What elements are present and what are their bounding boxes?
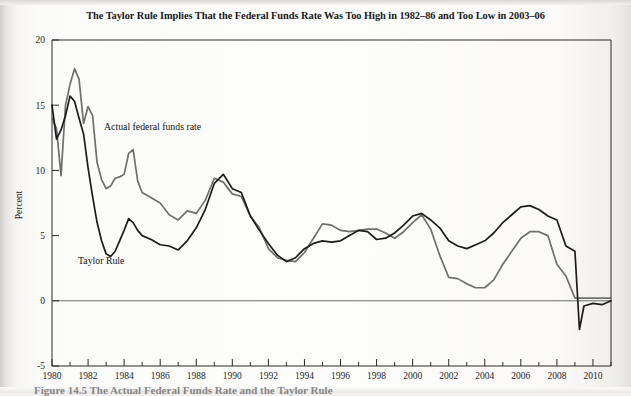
x-axis-tick-label: 1980 bbox=[43, 371, 62, 381]
figure-caption: Figure 14.5 The Actual Federal Funds Rat… bbox=[34, 384, 333, 396]
series-layer bbox=[52, 69, 611, 330]
x-axis-tick-label: 1998 bbox=[367, 371, 386, 381]
y-axis-tick-label: 0 bbox=[40, 296, 45, 306]
x-axis-tick-label: 2010 bbox=[583, 371, 602, 381]
x-axis-tick-label: 2006 bbox=[511, 371, 530, 381]
x-axis-tick-label: 1990 bbox=[223, 371, 242, 381]
y-axis-tick-label: -5 bbox=[37, 361, 45, 371]
x-axis-tick-label: 2002 bbox=[439, 371, 458, 381]
y-axis-tick-label: 10 bbox=[36, 166, 46, 176]
y-axis-tick-label: 15 bbox=[36, 101, 46, 111]
x-axis-tick-label: 2004 bbox=[475, 371, 494, 381]
plot-frame bbox=[52, 40, 611, 366]
x-axis-tick-label: 1988 bbox=[187, 371, 206, 381]
x-axis-tick-label: 1994 bbox=[295, 371, 314, 381]
y-axis-tick-label: 20 bbox=[36, 35, 46, 45]
x-axis-tick-label: 2008 bbox=[547, 371, 566, 381]
x-axis-tick-label: 1982 bbox=[79, 371, 98, 381]
x-axis-tick-label: 1986 bbox=[151, 371, 170, 381]
series-line-actual-federal-funds-rate bbox=[52, 69, 611, 299]
series-label-taylor: Taylor Rule bbox=[78, 255, 125, 266]
y-axis-tick-label: 5 bbox=[40, 231, 45, 241]
x-axis-tick-label: 1984 bbox=[115, 371, 134, 381]
x-axis-tick-label: 1996 bbox=[331, 371, 350, 381]
y-axis-title: Percent bbox=[14, 190, 24, 219]
axes-layer: -505101520198019821984198619881990199219… bbox=[36, 35, 612, 381]
x-axis-tick-label: 1992 bbox=[259, 371, 278, 381]
x-axis-tick-label: 2000 bbox=[403, 371, 422, 381]
series-label-actual: Actual federal funds rate bbox=[104, 121, 202, 132]
